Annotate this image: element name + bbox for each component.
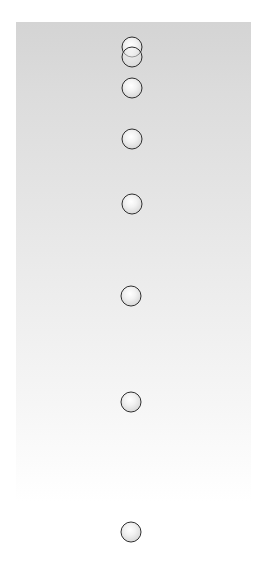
ball-icon — [122, 47, 143, 68]
ball-icon — [122, 78, 143, 99]
ball-icon — [121, 392, 142, 413]
ball-icon — [122, 194, 143, 215]
ball-icon — [122, 129, 143, 150]
ball-icon — [121, 522, 142, 543]
ball-icon — [121, 286, 142, 307]
